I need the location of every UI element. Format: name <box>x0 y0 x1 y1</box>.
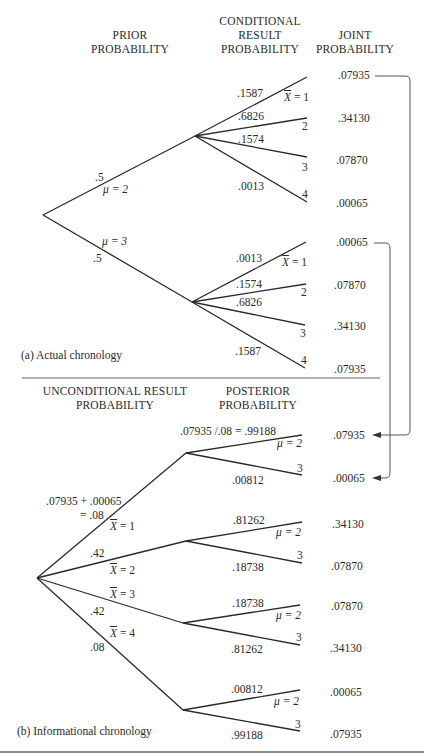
connector-00065 <box>374 243 390 478</box>
joint-value: .00065 <box>330 687 362 699</box>
joint-value: .00065 <box>333 473 365 485</box>
x-label: 2 <box>301 287 307 299</box>
cond-value: .0013 <box>238 181 264 193</box>
mu-label: 3 <box>297 550 303 562</box>
arrow-head-icon <box>372 432 381 438</box>
cond-value: .0013 <box>236 253 262 265</box>
prior-value: .5 <box>93 253 102 265</box>
joint-value: .34130 <box>338 113 370 125</box>
x-label: 3 <box>302 162 308 174</box>
cond-value: .1587 <box>235 346 261 358</box>
header-joint-probability: JOINTPROBABILITY <box>312 28 398 56</box>
cond-value: .6826 <box>236 297 262 309</box>
caption-informational-chronology: (b) Informational chronology <box>17 726 152 738</box>
uncond-value: .42 <box>90 606 104 618</box>
xbar-label: X = 1 <box>110 521 135 533</box>
uncond-value: = .08 <box>80 510 104 522</box>
header-posterior-probability: POSTERIORPROBABILITY <box>212 384 304 412</box>
mu-label: μ = 2 <box>276 527 301 539</box>
posterior-value: .07935 /.08 = .99188 <box>180 426 276 438</box>
joint-value: .07870 <box>331 561 363 573</box>
mu-label: μ = 2 <box>274 696 299 708</box>
connector-07935 <box>375 76 410 435</box>
caption-actual-chronology: (a) Actual chronology <box>21 350 122 362</box>
joint-value: .34130 <box>334 321 366 333</box>
posterior-value: .81262 <box>231 644 263 656</box>
joint-value: .00065 <box>336 237 368 249</box>
xbar-label: X = 2 <box>110 565 135 577</box>
posterior-value: .18738 <box>232 598 264 610</box>
branch-mu3 <box>43 215 192 302</box>
mu-label: μ = 2 <box>103 184 128 196</box>
x-label: 2 <box>302 121 308 133</box>
joint-value: .07935 <box>333 430 365 442</box>
posterior-value: .00812 <box>231 684 263 696</box>
uncond-value: .08 <box>90 642 104 654</box>
joint-value: .07870 <box>336 155 368 167</box>
joint-value: .07870 <box>331 601 363 613</box>
prior-value: .5 <box>95 172 104 184</box>
x-label: 3 <box>300 328 306 340</box>
posterior-value: .99188 <box>231 730 263 742</box>
branch-mu2 <box>43 136 195 215</box>
posterior-value: .18738 <box>232 562 264 574</box>
mu-label: μ = 3 <box>102 236 127 248</box>
xbar-label: X = 3 <box>110 589 135 601</box>
xbar-label: X = 1 <box>282 257 307 269</box>
joint-value: .34130 <box>330 643 362 655</box>
mu-label: 3 <box>296 632 302 644</box>
x-label: 4 <box>301 355 307 367</box>
x-label: 4 <box>302 189 308 201</box>
cond-value: .1574 <box>236 279 262 291</box>
mu-label: μ = 2 <box>277 438 302 450</box>
cond-value: .1587 <box>237 88 263 100</box>
arrow-head-icon <box>372 475 381 481</box>
uncond-value: .07935 + .00065 <box>46 496 122 508</box>
header-conditional-result-probability: CONDITIONALRESULTPROBABILITY <box>205 14 315 56</box>
xbar-label: X = 1 <box>284 92 309 104</box>
header-prior-probability: PRIORPROBABILITY <box>80 28 180 56</box>
joint-value: .00065 <box>336 198 368 210</box>
cond-value: .1574 <box>238 134 264 146</box>
mu-label: μ = 2 <box>276 610 301 622</box>
header-unconditional-result-probability: UNCONDITIONAL RESULTPROBABILITY <box>30 384 200 412</box>
cond-value: .6826 <box>238 111 264 123</box>
mu-label: 3 <box>297 463 303 475</box>
uncond-value: .42 <box>90 548 104 560</box>
joint-value: .07935 <box>338 70 370 82</box>
joint-value: .34130 <box>332 519 364 531</box>
posterior-value: .81262 <box>233 515 265 527</box>
joint-value: .07935 <box>330 729 362 741</box>
mu-label: 3 <box>295 719 301 731</box>
joint-value: .07870 <box>334 280 366 292</box>
joint-value: .07935 <box>334 364 366 376</box>
posterior-value: .00812 <box>232 475 264 487</box>
xbar-label: X = 4 <box>110 628 135 640</box>
